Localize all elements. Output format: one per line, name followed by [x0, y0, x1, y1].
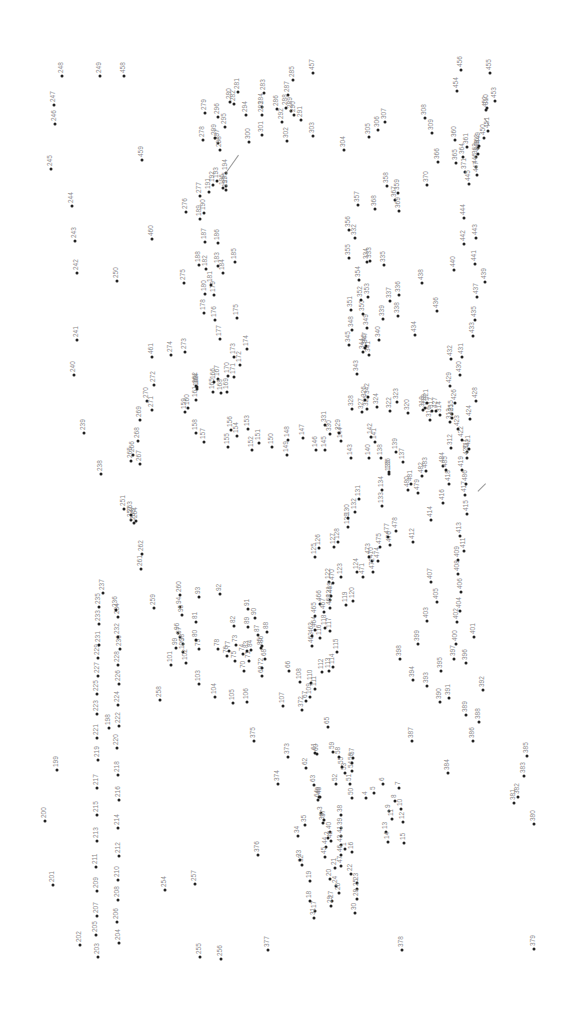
dot-number-label: 385 [523, 742, 530, 753]
dot-number-label: 256 [217, 945, 224, 956]
puzzle-dot [102, 592, 105, 595]
dot-number-label: 59 [329, 742, 336, 749]
puzzle-dot [220, 958, 223, 961]
dot-number-label: 199 [53, 756, 60, 767]
dot-number-label: 149 [283, 441, 290, 452]
puzzle-dot [489, 72, 492, 75]
dot-number-label: 206 [113, 908, 120, 919]
dot-number-label: 50 [348, 788, 355, 795]
dot-number-label: 157 [200, 428, 207, 439]
dot-number-label: 219 [94, 746, 101, 757]
puzzle-dot [300, 119, 303, 122]
dot-number-label: 177 [216, 325, 223, 336]
puzzle-dot [248, 141, 251, 144]
puzzle-dot [338, 892, 341, 895]
puzzle-dot [250, 649, 253, 652]
dot-number-label: 5 [370, 786, 377, 790]
dot-number-label: 37 [320, 810, 327, 817]
dot-number-label: 276 [182, 198, 189, 209]
puzzle-dot [426, 685, 429, 688]
dot-number-label: 427 [432, 397, 439, 408]
puzzle-dot [115, 609, 118, 612]
dot-number-label: 373 [284, 743, 291, 754]
dot-number-label: 201 [49, 871, 56, 882]
dot-number-label: 404 [456, 597, 463, 608]
dot-number-label: 275 [180, 269, 187, 280]
puzzle-dot [440, 670, 443, 673]
puzzle-dot [368, 556, 371, 559]
dot-number-label: 383 [520, 762, 527, 773]
puzzle-dot [258, 442, 261, 445]
dot-number-label: 447 [473, 161, 480, 172]
puzzle-dot [494, 100, 497, 103]
puzzle-dot [466, 146, 469, 149]
puzzle-dot [383, 264, 386, 267]
dot-number-label: 139 [392, 438, 399, 449]
dot-number-label: 151 [255, 429, 262, 440]
dot-number-label: 90 [251, 608, 258, 615]
puzzle-dot [430, 519, 433, 522]
puzzle-dot [347, 526, 350, 529]
dot-number-label: 395 [437, 657, 444, 668]
puzzle-dot [459, 610, 462, 613]
puzzle-dot [451, 417, 454, 420]
puzzle-dot [95, 934, 98, 937]
dot-number-label: 379 [530, 935, 537, 946]
puzzle-dot [312, 135, 315, 138]
puzzle-dot [362, 351, 365, 354]
puzzle-dot [108, 727, 111, 730]
dot-number-label: 273 [181, 338, 188, 349]
puzzle-dot [466, 513, 469, 516]
dot-number-label: 14 [384, 832, 391, 839]
dot-number-label: 224 [114, 691, 121, 702]
puzzle-dot [429, 419, 432, 422]
puzzle-dot [99, 75, 102, 78]
puzzle-dot [195, 639, 198, 642]
dot-number-label: 440 [450, 256, 457, 267]
puzzle-dot [204, 293, 207, 296]
puzzle-dot [314, 556, 317, 559]
dot-number-label: 62 [302, 758, 309, 765]
puzzle-dot [194, 883, 197, 886]
puzzle-dot [116, 280, 119, 283]
puzzle-dot [314, 629, 317, 632]
puzzle-dot [233, 625, 236, 628]
puzzle-dot [484, 281, 487, 284]
dot-number-label: 182 [202, 255, 209, 266]
puzzle-dot [311, 645, 314, 648]
dot-number-label: 205 [92, 921, 99, 932]
puzzle-dot [313, 917, 316, 920]
dot-number-label: 212 [115, 842, 122, 853]
puzzle-dot [217, 242, 220, 245]
dot-number-label: 388 [475, 708, 482, 719]
puzzle-dot [170, 354, 173, 357]
dot-number-label: 155 [224, 433, 231, 444]
dot-number-label: 269 [136, 406, 143, 417]
puzzle-dot [195, 621, 198, 624]
puzzle-dot [282, 705, 285, 708]
puzzle-dot [96, 787, 99, 790]
puzzle-dot [533, 948, 536, 951]
dot-number-label: 248 [58, 62, 65, 73]
puzzle-dot [212, 391, 215, 394]
puzzle-dot [399, 658, 402, 661]
puzzle-dot [338, 432, 341, 435]
dot-number-label: 478 [392, 517, 399, 528]
dot-number-label: 197 [222, 176, 229, 187]
dot-number-label: 152 [248, 436, 255, 447]
puzzle-dot [153, 384, 156, 387]
dot-number-label: 473 [365, 543, 372, 554]
dot-number-label: 300 [245, 128, 252, 139]
puzzle-dot [463, 550, 466, 553]
dot-number-label: 26 [335, 883, 342, 890]
dot-number-label: 413 [456, 522, 463, 533]
dot-number-label: 231 [95, 631, 102, 642]
puzzle-dot [302, 437, 305, 440]
dot-number-label: 210 [114, 866, 121, 877]
dot-number-label: 279 [201, 99, 208, 110]
puzzle-dot [435, 410, 438, 413]
puzzle-dot [460, 591, 463, 594]
dot-number-label: 347 [362, 332, 369, 343]
puzzle-dot [234, 660, 237, 663]
puzzle-dot [226, 655, 229, 658]
